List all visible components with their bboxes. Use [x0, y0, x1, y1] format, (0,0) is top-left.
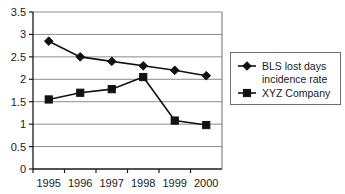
- y-axis-tick-label: 3: [20, 28, 26, 40]
- legend-marker-square-icon: [243, 89, 250, 96]
- data-point-marker: [45, 96, 52, 103]
- legend-label: BLS lost days: [262, 60, 326, 72]
- data-point-marker: [203, 121, 210, 128]
- data-point-marker: [108, 86, 115, 93]
- y-axis-tick-label: 0: [20, 163, 26, 175]
- y-axis-tick-label: 3.5: [11, 6, 26, 18]
- x-axis-tick-label: 1997: [100, 177, 124, 189]
- legend-label: incidence rate: [262, 73, 328, 85]
- data-point-marker: [171, 117, 178, 124]
- y-axis-tick-label: 1.5: [11, 96, 26, 108]
- data-point-marker: [140, 73, 147, 80]
- y-axis-tick-label: 1: [20, 118, 26, 130]
- chart-legend: BLS lost daysincidence rateXYZ Company: [231, 53, 341, 105]
- y-axis-tick-label: 0.5: [11, 141, 26, 153]
- chart-screenshot: 00.511.522.533.5 19951996199719981999200…: [0, 0, 345, 194]
- x-axis-tick-label: 1999: [163, 177, 187, 189]
- y-axis-tick-label: 2.5: [11, 51, 26, 63]
- data-point-marker: [77, 89, 84, 96]
- y-axis-tick-label: 2: [20, 73, 26, 85]
- x-axis-tick-label: 1998: [131, 177, 155, 189]
- x-axis-tick-label: 1995: [37, 177, 61, 189]
- line-chart: 00.511.522.533.5 19951996199719981999200…: [0, 0, 345, 194]
- x-axis-tick-label: 1996: [68, 177, 92, 189]
- legend-label: XYZ Company: [262, 87, 331, 99]
- x-axis-tick-label: 2000: [194, 177, 218, 189]
